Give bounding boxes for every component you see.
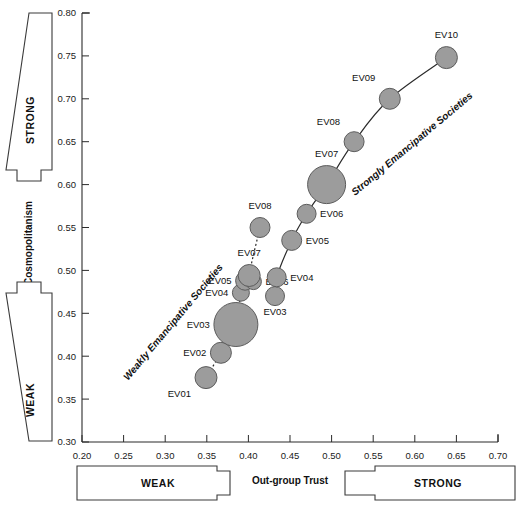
data-point-bubble[interactable] (266, 287, 285, 306)
y-axis-title: Cosmopolitanism (23, 201, 34, 285)
data-point-bubble[interactable] (267, 268, 286, 287)
x-tick-label: 0.60 (406, 450, 425, 461)
x-strong-label: STRONG (414, 477, 462, 489)
x-tick-label: 0.20 (73, 450, 92, 461)
data-point-bubble[interactable] (344, 132, 364, 152)
data-point-label: EV06 (320, 208, 343, 219)
data-point-bubble[interactable] (297, 204, 316, 223)
y-tick-label: 0.40 (58, 351, 77, 362)
y-tick-label: 0.70 (58, 93, 77, 104)
x-tick-label: 0.30 (156, 450, 175, 461)
data-point-bubble[interactable] (214, 303, 258, 347)
x-tick-label: 0.25 (114, 450, 133, 461)
x-tick-label: 0.50 (322, 450, 341, 461)
x-axis-strong-arrow: STRONG (345, 466, 515, 500)
y-tick-label: 0.30 (58, 436, 77, 447)
chart-canvas: 0.300.350.400.450.500.550.600.650.700.75… (0, 0, 519, 514)
y-tick-label: 0.65 (58, 136, 77, 147)
data-point-bubble[interactable] (308, 166, 346, 204)
data-point-label: EV10 (435, 29, 458, 40)
x-weak-label: WEAK (141, 477, 175, 489)
y-strong-label: STRONG (24, 96, 36, 144)
y-tick-label: 0.35 (58, 394, 77, 405)
data-point-label: EV02 (183, 347, 206, 358)
y-tick-label: 0.55 (58, 222, 77, 233)
data-point-bubble[interactable] (195, 367, 217, 389)
x-axis-weak-arrow: WEAK (77, 466, 230, 500)
data-point-label: EV04 (205, 287, 228, 298)
y-tick-label: 0.80 (58, 7, 77, 18)
x-axis-title: Out-group Trust (252, 475, 329, 486)
y-tick-label: 0.75 (58, 50, 77, 61)
data-point-label: EV08 (248, 200, 271, 211)
data-point-label: EV04 (290, 272, 313, 283)
data-point-label: EV03 (263, 306, 286, 317)
data-point-bubble[interactable] (379, 88, 400, 109)
data-point-label: EV07 (238, 247, 261, 258)
y-weak-label: WEAK (24, 383, 36, 417)
data-point-bubble[interactable] (435, 47, 457, 69)
x-tick-label: 0.40 (239, 450, 258, 461)
y-tick-label: 0.50 (58, 265, 77, 276)
cosmopolitanism-outgroup-trust-bubble-chart: 0.300.350.400.450.500.550.600.650.700.75… (0, 0, 519, 514)
data-point-bubble[interactable] (250, 218, 270, 238)
data-point-label: EV01 (168, 388, 191, 399)
data-point-bubble[interactable] (282, 230, 302, 250)
x-tick-label: 0.65 (447, 450, 466, 461)
x-tick-label: 0.70 (489, 450, 508, 461)
data-point-label: EV03 (187, 319, 210, 330)
data-point-label: EV07 (315, 148, 338, 159)
data-point-label: EV08 (317, 116, 340, 127)
x-tick-label: 0.45 (281, 450, 300, 461)
y-tick-label: 0.60 (58, 179, 77, 190)
data-point-label: EV05 (306, 235, 329, 246)
data-point-bubble[interactable] (238, 265, 260, 287)
data-point-label: EV09 (352, 72, 375, 83)
x-tick-label: 0.55 (364, 450, 383, 461)
x-tick-label: 0.35 (198, 450, 217, 461)
y-tick-label: 0.45 (58, 308, 77, 319)
